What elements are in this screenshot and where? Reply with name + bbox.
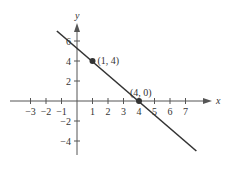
- y-axis-arrow-icon: [74, 23, 80, 32]
- x-axis: −3−2−11234567 x: [10, 95, 221, 117]
- point-label: (1, 4): [98, 55, 120, 67]
- data-points: (1, 4)(4, 0): [90, 55, 152, 104]
- y-tick-label: −2: [60, 116, 71, 127]
- y-tick-label: −4: [60, 136, 71, 147]
- x-tick-label: 6: [168, 106, 173, 117]
- data-line: [57, 31, 197, 151]
- x-tick-label: 3: [121, 106, 126, 117]
- x-axis-arrow-icon: [203, 98, 212, 104]
- x-tick-label: −3: [25, 106, 36, 117]
- x-tick-label: 1: [90, 106, 95, 117]
- x-tick-label: 4: [137, 106, 142, 117]
- chart: −3−2−11234567 x 642−2−4 y (1, 4)(4, 0): [0, 0, 226, 169]
- data-point-marker: [90, 58, 96, 64]
- data-point-marker: [136, 98, 142, 104]
- x-tick-label: 2: [106, 106, 111, 117]
- y-axis: 642−2−4 y: [60, 10, 80, 155]
- x-tick-label: 7: [183, 106, 188, 117]
- y-axis-label: y: [74, 10, 80, 21]
- x-tick-label: −2: [41, 106, 52, 117]
- x-axis-label: x: [215, 95, 221, 106]
- y-tick-label: 4: [66, 56, 71, 67]
- point-label: (4, 0): [130, 87, 152, 99]
- y-tick-label: 2: [66, 76, 71, 87]
